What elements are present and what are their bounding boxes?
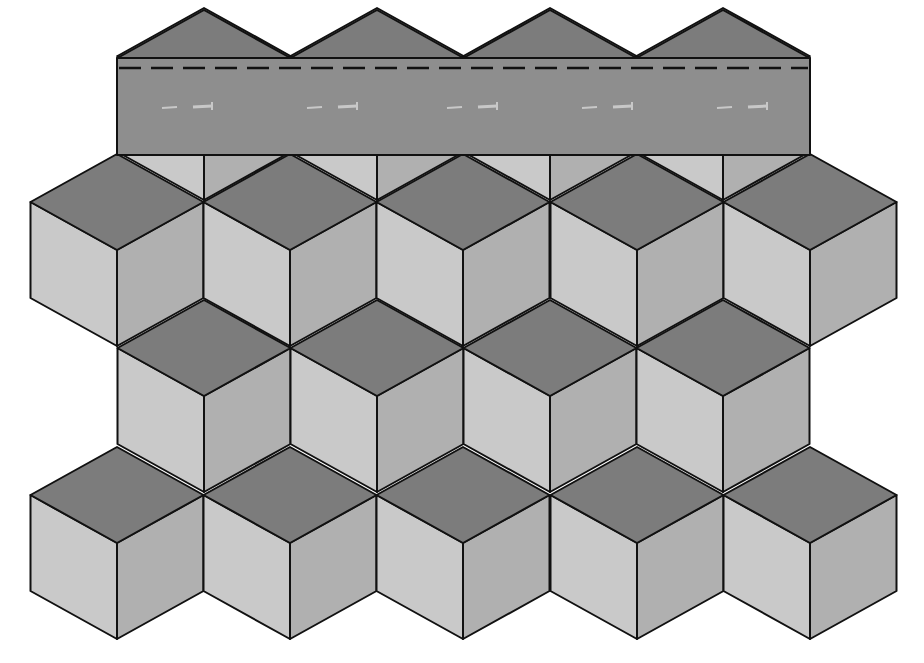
needle-mark-3-dash [447,107,462,108]
needle-mark-4-dash [582,107,597,108]
banner-triangle-1 [118,10,291,58]
needle-mark-1-arrow [193,106,212,107]
tumbling-blocks-diagram: Tumbling blocks quilt pattern with top b… [0,0,924,663]
pattern-canvas [0,0,924,663]
banner-triangle-4 [637,10,810,58]
banner-strip [117,58,810,155]
needle-mark-3-arrow [478,106,497,107]
needle-mark-4-arrow [613,106,632,107]
banner-triangle-2 [291,10,464,58]
needle-mark-5-dash [717,107,732,108]
needle-mark-2-arrow [338,106,357,107]
needle-mark-1-dash [162,107,177,108]
needle-mark-2-dash [307,107,322,108]
banner-triangle-3 [464,10,637,58]
needle-mark-5-arrow [748,106,767,107]
